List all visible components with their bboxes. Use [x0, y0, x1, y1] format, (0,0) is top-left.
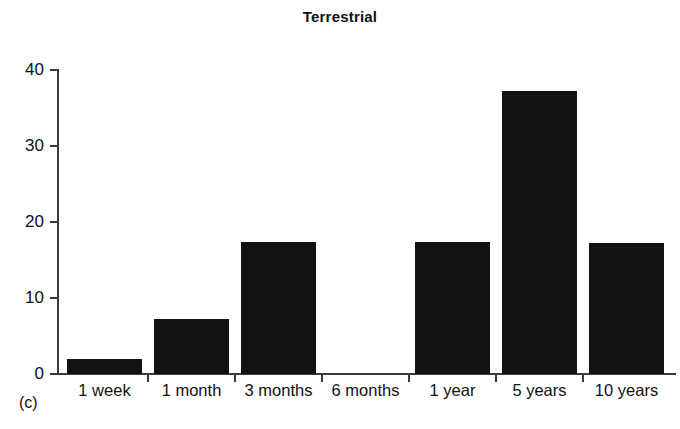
x-axis-label: 6 months [322, 381, 409, 399]
x-axis-label: 5 years [496, 381, 583, 399]
x-axis-label: 10 years [583, 381, 670, 399]
bar [589, 243, 663, 374]
y-axis-tick-label: 0 [0, 365, 44, 382]
x-axis-label: 1 month [148, 381, 235, 399]
panel-caption: (c) [19, 394, 38, 412]
bar [502, 91, 576, 374]
y-axis-tick [50, 373, 58, 375]
bar [154, 319, 228, 374]
x-axis-label: 1 week [61, 381, 148, 399]
x-axis-label: 1 year [409, 381, 496, 399]
plot-area [61, 70, 670, 374]
y-axis-tick [50, 69, 58, 71]
chart-title: Terrestrial [0, 8, 680, 25]
y-axis-tick-label: 40 [0, 61, 44, 78]
y-axis-tick-label: 30 [0, 137, 44, 154]
figure-panel: Terrestrial 010203040 1 week1 month3 mon… [0, 0, 680, 429]
y-axis-tick-label: 20 [0, 213, 44, 230]
y-axis-tick-label: 10 [0, 289, 44, 306]
bar [415, 242, 489, 374]
y-axis-tick [50, 221, 58, 223]
x-axis-label: 3 months [235, 381, 322, 399]
y-axis-tick [50, 145, 58, 147]
bar [241, 242, 315, 374]
bar [67, 359, 141, 374]
y-axis-tick [50, 297, 58, 299]
